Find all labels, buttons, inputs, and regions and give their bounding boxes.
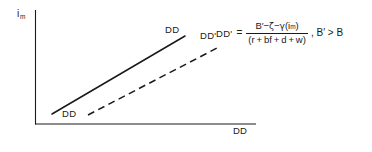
equation-fraction: B′−ζ−γ(im) (r + bf + d + w) <box>246 21 308 46</box>
dd-prime-equation: DD' = B′−ζ−γ(im) (r + bf + d + w) , B′ >… <box>216 21 343 46</box>
y-axis-label: im <box>17 8 25 19</box>
y-axis-label-subscript: m <box>20 13 26 20</box>
equation-tail: , B′ > B <box>311 28 343 38</box>
equation-equals-sign: = <box>236 28 242 38</box>
numerator-b-prime: B′ <box>255 20 263 31</box>
equation-denominator: (r + bf + d + w) <box>246 34 308 46</box>
tail-comma: , <box>311 27 314 38</box>
x-axis-label: DD <box>233 125 247 136</box>
tail-b-prime: B′ <box>316 27 325 38</box>
figure-container: im DD DD DD DD' = B′−ζ−γ(im) (r + bf + d… <box>0 0 372 152</box>
curve-label-dd-top: DD <box>165 24 179 35</box>
curve-label-dd-prime: DD' <box>200 30 216 41</box>
equation-curve-name: DD' <box>216 29 232 39</box>
equation-numerator: B′−ζ−γ(im) <box>253 21 300 33</box>
numerator-close-paren: ) <box>296 20 299 31</box>
tail-greater-than: > <box>328 27 334 38</box>
tail-b: B <box>336 27 343 38</box>
curve-label-dd-bottom: DD <box>62 108 76 119</box>
